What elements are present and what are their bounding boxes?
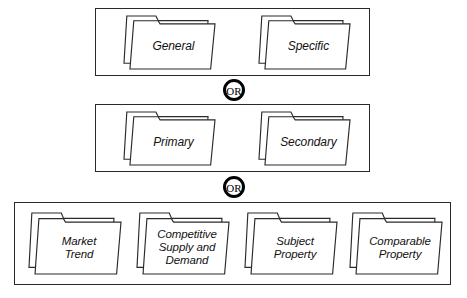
folder-label: Competitive Supply and Demand — [136, 228, 230, 267]
folder-primary[interactable]: Primary — [123, 111, 216, 166]
folder-label: Secondary — [258, 136, 351, 149]
or-connector: OR — [223, 79, 245, 101]
folder-competitive-supply-and-demand[interactable]: Competitive Supply and Demand — [136, 212, 230, 275]
folder-label: Subject Property — [244, 235, 338, 261]
folder-market-trend[interactable]: Market Trend — [28, 212, 122, 275]
folder-label: Primary — [123, 136, 216, 149]
or-connector-label: OR — [226, 182, 241, 193]
folder-label: Comparable Property — [349, 235, 443, 261]
folder-hierarchy-diagram: GeneralSpecificPrimarySecondaryMarket Tr… — [0, 0, 467, 298]
folder-comparable-property[interactable]: Comparable Property — [349, 212, 443, 275]
folder-general[interactable]: General — [123, 15, 216, 70]
folder-subject-property[interactable]: Subject Property — [244, 212, 338, 275]
folder-secondary[interactable]: Secondary — [258, 111, 351, 166]
or-connector-label: OR — [226, 85, 241, 96]
folder-label: Specific — [258, 40, 351, 53]
folder-specific[interactable]: Specific — [258, 15, 351, 70]
folder-label: Market Trend — [28, 235, 122, 261]
folder-label: General — [123, 40, 216, 53]
or-connector: OR — [223, 176, 245, 198]
